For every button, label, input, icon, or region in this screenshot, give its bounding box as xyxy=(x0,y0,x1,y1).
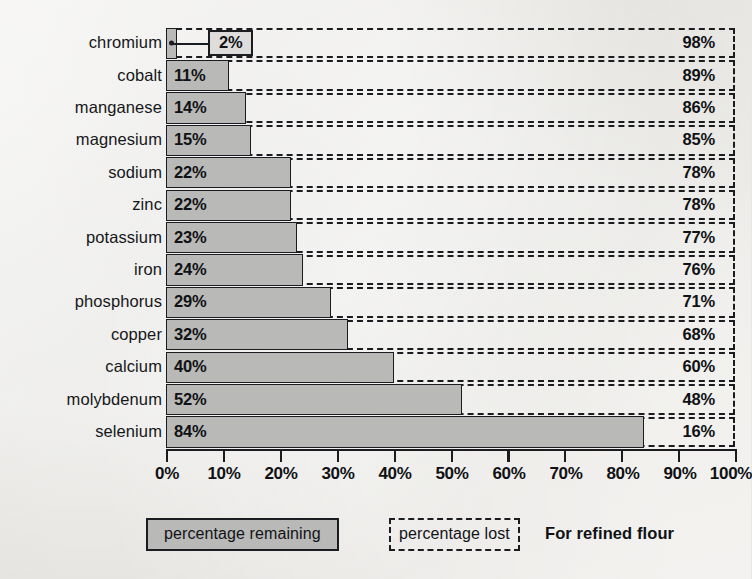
lost-value-potassium: 77% xyxy=(683,228,715,247)
x-tick-label-70: 70% xyxy=(549,464,582,484)
remaining-value-selenium: 84% xyxy=(174,422,206,441)
remaining-bar-phosphorus: 29% xyxy=(166,287,331,318)
x-tick-60 xyxy=(507,451,509,462)
remaining-value-zinc: 22% xyxy=(174,195,206,214)
chart-row-selenium: selenium 16% 84% xyxy=(0,416,751,448)
x-tick-label-10: 10% xyxy=(207,464,240,484)
x-tick-10 xyxy=(223,451,225,462)
remaining-bar-sodium: 22% xyxy=(166,157,291,188)
x-tick-50 xyxy=(451,451,453,462)
lost-value-phosphorus: 71% xyxy=(683,292,715,311)
legend-item-percentage-remaining: percentage remaining xyxy=(146,518,339,551)
remaining-value-iron: 24% xyxy=(174,260,206,279)
row-label-copper: copper xyxy=(111,325,162,344)
row-label-chromium: chromium xyxy=(89,33,162,52)
lost-value-sodium: 78% xyxy=(683,163,715,182)
remaining-value-magnesium: 15% xyxy=(174,130,206,149)
remaining-value-potassium: 23% xyxy=(174,228,206,247)
chart-row-molybdenum: molybdenum 48% 52% xyxy=(0,383,751,415)
lost-value-calcium: 60% xyxy=(683,357,715,376)
remaining-value-manganese: 14% xyxy=(174,98,206,117)
remaining-value-molybdenum: 52% xyxy=(174,390,206,409)
remaining-bar-molybdenum: 52% xyxy=(166,384,462,415)
chart-row-cobalt: cobalt 89% 11% xyxy=(0,59,751,91)
remaining-value-copper: 32% xyxy=(174,325,206,344)
row-label-potassium: potassium xyxy=(86,228,162,247)
lost-value-manganese: 86% xyxy=(683,98,715,117)
x-tick-30 xyxy=(337,451,339,462)
x-tick-label-60: 60% xyxy=(492,464,525,484)
x-tick-100 xyxy=(735,451,737,462)
remaining-bar-cobalt: 11% xyxy=(166,60,229,91)
legend-caption-for-refined-flour: For refined flour xyxy=(545,524,674,543)
remaining-value-sodium: 22% xyxy=(174,163,206,182)
remaining-bar-zinc: 22% xyxy=(166,190,291,221)
x-tick-label-100: 100% xyxy=(710,464,752,484)
remaining-value-phosphorus: 29% xyxy=(174,292,206,311)
chart-row-copper: copper 68% 32% xyxy=(0,319,751,351)
remaining-bar-magnesium: 15% xyxy=(166,125,251,156)
row-label-zinc: zinc xyxy=(132,195,162,214)
x-tick-label-90: 90% xyxy=(663,464,696,484)
x-tick-70 xyxy=(564,451,566,462)
lost-value-chromium: 98% xyxy=(683,33,715,52)
callout-value-chromium: 2% xyxy=(208,30,253,56)
x-tick-label-40: 40% xyxy=(378,464,411,484)
x-tick-label-20: 20% xyxy=(264,464,297,484)
row-label-phosphorus: phosphorus xyxy=(75,292,162,311)
row-label-manganese: manganese xyxy=(75,98,162,117)
remaining-bar-iron: 24% xyxy=(166,254,303,285)
lost-value-cobalt: 89% xyxy=(683,66,715,85)
lost-value-selenium: 16% xyxy=(683,422,715,441)
x-tick-label-50: 50% xyxy=(435,464,468,484)
chart-row-zinc: zinc 78% 22% xyxy=(0,189,751,221)
x-tick-90 xyxy=(678,451,680,462)
chart-legend: percentage remaining percentage lost For… xyxy=(0,515,751,563)
chart-row-potassium: potassium 77% 23% xyxy=(0,221,751,253)
chart-row-iron: iron 76% 24% xyxy=(0,254,751,286)
lost-box-manganese: 86% xyxy=(166,93,735,123)
lost-box-cobalt: 89% xyxy=(166,60,735,90)
x-tick-label-80: 80% xyxy=(606,464,639,484)
lost-value-iron: 76% xyxy=(683,260,715,279)
remaining-bar-selenium: 84% xyxy=(166,416,644,447)
legend-item-percentage-lost: percentage lost xyxy=(389,518,520,551)
remaining-value-calcium: 40% xyxy=(174,357,206,376)
chart-row-sodium: sodium 78% 22% xyxy=(0,157,751,189)
chart-row-magnesium: magnesium 85% 15% xyxy=(0,124,751,156)
callout-leader-line xyxy=(171,43,210,45)
row-label-iron: iron xyxy=(134,260,162,279)
x-tick-80 xyxy=(621,451,623,462)
row-label-cobalt: cobalt xyxy=(117,66,162,85)
x-tick-0 xyxy=(166,451,168,462)
row-label-sodium: sodium xyxy=(108,163,162,182)
remaining-bar-potassium: 23% xyxy=(166,222,297,253)
chart-row-phosphorus: phosphorus 71% 29% xyxy=(0,286,751,318)
chart-row-calcium: calcium 60% 40% xyxy=(0,351,751,383)
chart-row-manganese: manganese 86% 14% xyxy=(0,92,751,124)
lost-value-molybdenum: 48% xyxy=(683,390,715,409)
x-tick-40 xyxy=(394,451,396,462)
row-label-molybdenum: molybdenum xyxy=(67,390,162,409)
remaining-bar-calcium: 40% xyxy=(166,352,394,383)
x-tick-20 xyxy=(280,451,282,462)
remaining-value-cobalt: 11% xyxy=(174,66,206,85)
x-tick-label-30: 30% xyxy=(321,464,354,484)
lost-value-magnesium: 85% xyxy=(683,130,715,149)
x-tick-label-0: 0% xyxy=(155,464,179,484)
row-label-magnesium: magnesium xyxy=(76,130,162,149)
lost-value-copper: 68% xyxy=(683,325,715,344)
row-label-selenium: selenium xyxy=(95,422,162,441)
row-label-calcium: calcium xyxy=(105,357,162,376)
lost-value-zinc: 78% xyxy=(683,195,715,214)
chart-row-chromium: chromium 98% 2% xyxy=(0,27,751,59)
remaining-bar-manganese: 14% xyxy=(166,92,246,123)
remaining-bar-copper: 32% xyxy=(166,319,348,350)
